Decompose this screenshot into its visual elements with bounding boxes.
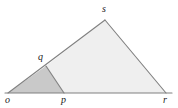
region-quadrilateral-qsrp — [46, 20, 166, 93]
geometry-canvas — [0, 0, 178, 108]
vertex-label-q: q — [38, 52, 43, 62]
geometry-figure: o p r q s — [0, 0, 178, 108]
vertex-label-o: o — [5, 95, 10, 105]
vertex-label-s: s — [102, 4, 106, 14]
vertex-label-p: p — [61, 95, 66, 105]
vertex-label-r: r — [163, 95, 167, 105]
